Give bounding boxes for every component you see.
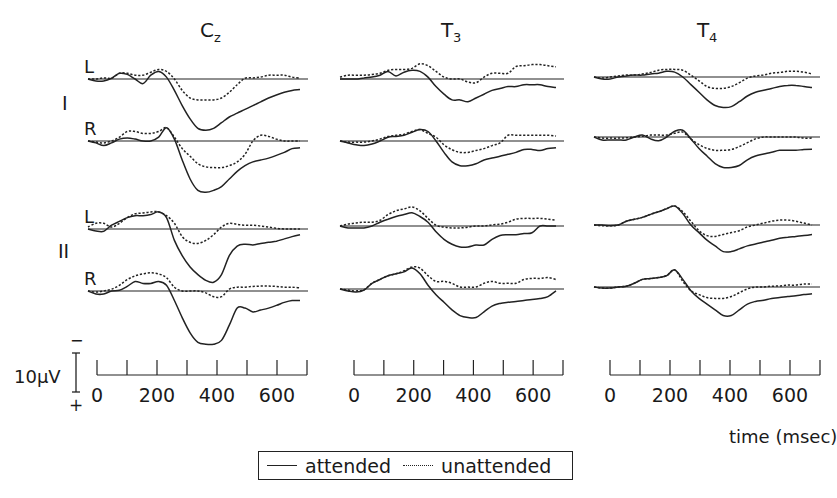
group-label-i: I <box>62 92 68 114</box>
legend-item-attended: attended <box>267 455 391 477</box>
tick-label: 0 <box>91 384 103 406</box>
panel-t3-ii-r <box>340 267 564 318</box>
tick-label: 600 <box>259 384 295 406</box>
tick-label: 400 <box>199 384 235 406</box>
tick-label: 600 <box>772 384 808 406</box>
voltage-scale-bar <box>72 353 80 392</box>
attended-waveform <box>340 213 556 248</box>
legend-label-unattended: unattended <box>441 455 551 477</box>
group-label-ii: II <box>58 240 69 262</box>
unattended-waveform <box>594 270 812 299</box>
svg-text:3: 3 <box>453 30 461 45</box>
side-label-i-l: L <box>84 56 94 77</box>
column-title-t4: T 4 <box>696 18 717 45</box>
side-label-i-r: R <box>84 118 97 139</box>
panel-cz-i-l <box>88 69 308 130</box>
legend-item-unattended: unattended <box>403 455 551 477</box>
svg-text:C: C <box>200 18 214 42</box>
unattended-waveform <box>340 267 556 291</box>
legend: attended unattended <box>258 451 573 480</box>
svg-text:T: T <box>440 18 454 42</box>
unattended-waveform <box>88 69 300 100</box>
scale-minus-sign: − <box>70 331 83 350</box>
panel-t4-ii-r <box>594 270 820 316</box>
side-label-ii-r: R <box>84 268 97 289</box>
tick-label: 0 <box>604 384 616 406</box>
tick-label: 200 <box>652 384 688 406</box>
svg-text:z: z <box>214 30 221 45</box>
attended-waveform <box>594 270 812 316</box>
panel-t3-i-l <box>340 64 564 102</box>
unattended-waveform <box>88 273 300 298</box>
unattended-waveform <box>594 69 812 88</box>
panel-t4-ii-l <box>594 206 820 252</box>
panel-t3-i-r <box>340 130 564 166</box>
tick-label: 200 <box>396 384 432 406</box>
legend-label-attended: attended <box>305 455 391 477</box>
erp-figure: C z T 3 T 4 I II L R L R − + 10µV 020040… <box>0 0 837 498</box>
tick-label: 600 <box>515 384 551 406</box>
time-axis-cz: 0200400600 <box>91 360 307 406</box>
tick-label: 400 <box>712 384 748 406</box>
attended-waveform <box>88 212 300 283</box>
attended-waveform <box>88 71 300 130</box>
tick-label: 200 <box>139 384 175 406</box>
scale-label: 10µV <box>14 366 61 387</box>
column-title-cz: C z <box>200 18 221 45</box>
attended-waveform <box>594 130 812 168</box>
time-axis-t4: 0200400600 <box>604 360 820 406</box>
time-axes: 020040060002004006000200400600 <box>91 360 820 406</box>
panel-t4-i-l <box>594 69 820 107</box>
x-axis-label: time (msec) <box>729 426 837 447</box>
solid-line-swatch-icon <box>267 465 297 466</box>
time-axis-t3: 0200400600 <box>348 360 563 406</box>
attended-waveform <box>340 268 556 318</box>
unattended-waveform <box>594 206 812 237</box>
attended-waveform <box>594 206 812 252</box>
unattended-waveform <box>340 64 556 83</box>
panel-t4-i-r <box>594 130 820 168</box>
panel-t3-ii-l <box>340 207 564 247</box>
unattended-waveform <box>340 207 556 228</box>
panel-cz-i-r <box>88 128 308 193</box>
dotted-line-swatch-icon <box>403 465 433 466</box>
column-title-t3: T 3 <box>440 18 461 45</box>
panel-cz-ii-l <box>88 212 308 283</box>
waveform-panels <box>88 64 820 345</box>
scale-plus-sign: + <box>69 395 83 415</box>
unattended-waveform <box>594 132 812 151</box>
tick-label: 400 <box>455 384 491 406</box>
unattended-waveform <box>88 212 300 244</box>
svg-text:4: 4 <box>709 30 717 45</box>
tick-label: 0 <box>348 384 360 406</box>
unattended-waveform <box>88 128 300 168</box>
panel-cz-ii-r <box>88 273 308 345</box>
svg-text:T: T <box>696 18 710 42</box>
